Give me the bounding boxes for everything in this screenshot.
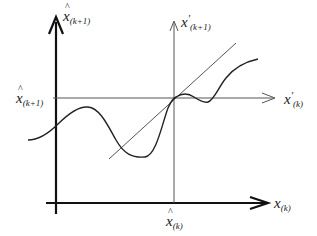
x-axis-secondary-label: x′(k)	[284, 90, 303, 109]
x-tick-symbol: x	[166, 214, 173, 229]
y-axis-main-symbol: x	[63, 9, 70, 24]
y-tick-label: x(k+1)	[16, 90, 43, 108]
y-axis-secondary-symbol: x	[181, 14, 188, 30]
y-tick-symbol: x	[16, 91, 23, 106]
y-axis-main-label: x(k+1)	[63, 8, 90, 26]
y-axis-secondary-subscript: (k+1)	[190, 22, 211, 32]
y-axis-secondary-label: x′(k+1)	[181, 13, 211, 32]
nonlinear-curve	[28, 59, 258, 157]
x-axis-secondary-symbol: x	[284, 91, 291, 107]
y-axis-main-subscript: (k+1)	[70, 16, 91, 26]
y-tick-subscript: (k+1)	[23, 98, 44, 108]
diagram-canvas	[0, 0, 317, 236]
x-axis-main-subscript: (k)	[281, 203, 291, 213]
x-axis-main-label: x(k)	[274, 195, 291, 213]
x-tick-subscript: (k)	[173, 221, 183, 231]
x-axis-secondary-subscript: (k)	[293, 99, 303, 109]
x-axis-main-symbol: x	[274, 195, 281, 211]
x-tick-label: x(k)	[166, 213, 183, 231]
